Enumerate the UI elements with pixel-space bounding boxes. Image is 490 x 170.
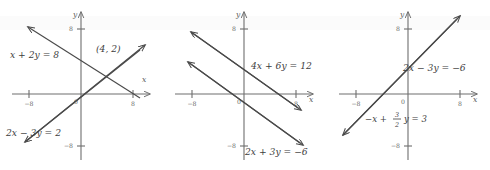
panel-intersecting-lines: −8 8 8 −8 0 x y x + 2y = 8 2x − 3y = 2 (… xyxy=(0,0,163,170)
y-tick-label-8: 8 xyxy=(232,25,236,32)
x-tick-label-8: 8 xyxy=(131,100,135,107)
equation-2-numerator: 3 xyxy=(395,111,399,119)
y-tick-label-neg8: −8 xyxy=(227,142,236,149)
y-axis-label: y xyxy=(235,10,241,19)
line-coincident-down xyxy=(343,19,457,135)
equation-label-2: 2x + 3y = −6 xyxy=(244,146,308,157)
equation-2-denominator: 2 xyxy=(394,121,399,129)
y-axis-label: y xyxy=(399,10,405,19)
equation-label-2: 2x − 3y = 2 xyxy=(5,127,61,138)
origin-label: 0 xyxy=(401,98,405,105)
equation-2-suffix: y = 3 xyxy=(403,114,428,124)
equation-label-1: 2x − 3y = −6 xyxy=(402,62,466,73)
y-tick-label-neg8: −8 xyxy=(64,142,73,149)
equation-label-2: −x + 3 2 y = 3 xyxy=(365,111,428,129)
figure-container: −8 8 8 −8 0 x y x + 2y = 8 2x − 3y = 2 (… xyxy=(0,0,490,170)
y-tick-label-neg8: −8 xyxy=(391,142,400,149)
panel-coincident-lines: −8 8 8 −8 0 x y 2x − 3y = −6 −x + 3 2 y … xyxy=(327,0,490,170)
panel-parallel-lines: −8 8 8 −8 0 x y 4x + 6y = 12 2x + 3y = −… xyxy=(163,0,326,170)
intersection-point-label: (4, 2) xyxy=(96,43,121,54)
x-axis-label: x xyxy=(309,95,314,104)
x-tick-label-8: 8 xyxy=(458,100,462,107)
x-axis-label: x xyxy=(473,95,478,104)
x-tick-label-neg8: −8 xyxy=(187,100,196,107)
equation-label-1: x + 2y = 8 xyxy=(10,49,59,60)
equation-2-prefix: −x + xyxy=(365,114,387,124)
x-tick-label-neg8: −8 xyxy=(351,100,360,107)
y-axis-label: y xyxy=(72,10,78,19)
x-tick-label-neg8: −8 xyxy=(24,100,33,107)
y-tick-label-8: 8 xyxy=(69,25,73,32)
x-axis-label: x xyxy=(142,75,147,84)
equation-label-1: 4x + 6y = 12 xyxy=(250,60,312,71)
y-tick-label-8: 8 xyxy=(396,25,400,32)
